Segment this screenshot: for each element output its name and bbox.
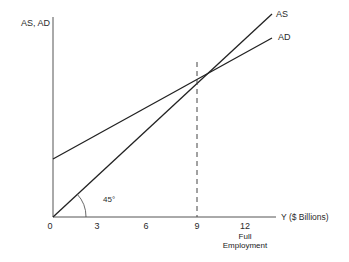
angle-label: 45° [103, 195, 115, 204]
x-tick-6: 6 [143, 221, 148, 231]
x-axis-label: Y ($ Billions) [281, 212, 329, 222]
x-tick-9: 9 [194, 221, 199, 231]
x-tick-0: 0 [47, 221, 52, 231]
angle-arc [77, 194, 86, 217]
full-employment-line1: Full [223, 232, 267, 241]
ad-line [53, 38, 272, 159]
ad-line-label: AD [278, 32, 291, 42]
full-employment-line2: Employment [223, 241, 267, 250]
x-tick-3: 3 [94, 221, 99, 231]
full-employment-label: Full Employment [223, 232, 267, 250]
y-axis-label: AS, AD [21, 18, 50, 28]
x-tick-12: 12 [240, 221, 250, 231]
as-line [53, 14, 272, 217]
as-line-label: AS [276, 9, 288, 19]
